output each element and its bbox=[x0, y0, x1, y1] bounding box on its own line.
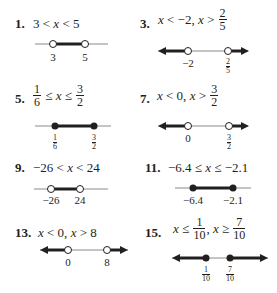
tick-label-fraction: 110 bbox=[202, 266, 210, 283]
closed-endpoint bbox=[227, 255, 234, 262]
left-arrow-icon bbox=[172, 254, 180, 262]
closed-endpoint bbox=[203, 255, 210, 262]
number-line bbox=[0, 0, 277, 293]
right-arrow-icon bbox=[260, 254, 268, 262]
tick-label-fraction: 710 bbox=[226, 266, 234, 283]
